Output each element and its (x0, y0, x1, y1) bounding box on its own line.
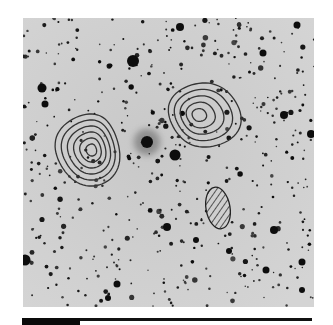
scale-bar-thick-segment (22, 318, 80, 325)
sky-image (23, 18, 314, 307)
scale-bar-thin-segment (80, 318, 312, 321)
scale-bar (22, 318, 312, 325)
astronomical-figure (0, 0, 333, 325)
star-field (23, 18, 314, 307)
